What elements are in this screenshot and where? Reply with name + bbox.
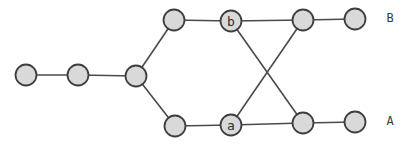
graph-diagram: ba	[0, 0, 410, 146]
endpoint-label-A: A	[386, 114, 393, 128]
graph-node-label-a: a	[227, 118, 235, 133]
graph-node-bottom-1	[165, 116, 186, 137]
graph-node-left-2	[68, 65, 89, 86]
graph-node-junction	[126, 66, 147, 87]
graph-node-bottom-4	[345, 112, 366, 133]
graph-figure: ba B A	[0, 0, 410, 146]
graph-node-top-3	[293, 10, 314, 31]
endpoint-label-B: B	[386, 11, 393, 25]
graph-node-top-4	[345, 9, 366, 30]
graph-node-left-1	[16, 65, 37, 86]
graph-node-top-1	[164, 10, 185, 31]
graph-node-bottom-3	[293, 113, 314, 134]
graph-node-label-b: b	[227, 14, 235, 29]
